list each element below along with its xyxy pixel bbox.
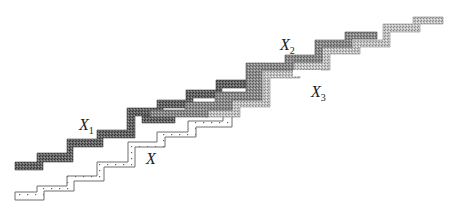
staircase-diagram bbox=[0, 0, 454, 215]
label-x1: X1 bbox=[79, 117, 94, 136]
label-x: X bbox=[146, 151, 156, 167]
label-x3: X3 bbox=[311, 84, 326, 103]
diagram-canvas: X1 X X2 X3 bbox=[0, 0, 454, 215]
label-x2: X2 bbox=[280, 37, 295, 56]
gap-region bbox=[293, 70, 321, 76]
